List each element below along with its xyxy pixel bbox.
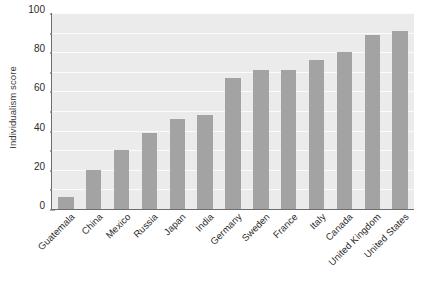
x-tick-label: Guatemala	[35, 211, 76, 252]
bar	[197, 115, 212, 209]
x-tick-label: Sweden	[239, 211, 271, 243]
bar	[253, 70, 268, 209]
y-tick-label: 0	[39, 200, 45, 211]
x-tick-label: Italy	[307, 211, 327, 231]
x-tick-label: Russia	[131, 211, 160, 240]
x-tick-label: China	[79, 211, 105, 237]
bar	[337, 52, 352, 209]
bar	[142, 133, 157, 209]
y-tick-label: 100	[28, 4, 45, 15]
x-tick-label: France	[270, 211, 299, 240]
bar	[281, 70, 296, 209]
bars-layer	[52, 13, 414, 209]
x-tick-label: India	[193, 211, 216, 234]
y-axis-tick-labels: 020406080100	[20, 9, 48, 209]
bar	[225, 78, 240, 209]
y-axis-title: Individualism score	[2, 0, 22, 215]
y-axis-title-text: Individualism score	[7, 66, 18, 149]
bar	[309, 60, 324, 209]
x-axis-tick-labels: GuatemalaChinaMexicoRussiaJapanIndiaGerm…	[51, 211, 413, 295]
bar	[365, 35, 380, 209]
bar	[86, 170, 101, 209]
x-tick-label: Mexico	[103, 211, 132, 240]
bar	[114, 150, 129, 209]
plot-area	[51, 13, 414, 210]
x-tick-label: Japan	[162, 211, 188, 237]
y-tick-label: 40	[34, 121, 45, 132]
y-tick-label: 20	[34, 160, 45, 171]
bar	[392, 31, 407, 209]
y-tick-label: 80	[34, 43, 45, 54]
bar-chart: Individualism score 020406080100 Guatema…	[0, 0, 427, 295]
bar	[170, 119, 185, 209]
y-tick-label: 60	[34, 82, 45, 93]
bar	[58, 197, 73, 209]
